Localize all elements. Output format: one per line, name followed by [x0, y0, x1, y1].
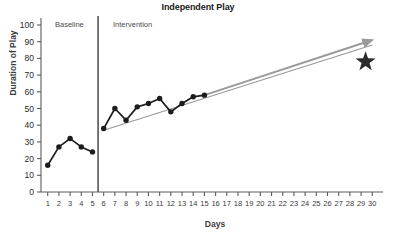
x-tick-label: 5 [90, 199, 94, 208]
x-tick-label: 7 [113, 199, 117, 208]
y-tick-label: 10 [25, 170, 35, 180]
x-tick-label: 23 [290, 199, 298, 208]
y-tick-label: 30 [25, 137, 35, 147]
x-tick-label: 4 [79, 199, 83, 208]
x-tick-label: 1 [46, 199, 50, 208]
y-tick-label: 20 [25, 154, 35, 164]
x-tick-label: 16 [211, 199, 219, 208]
x-tick-label: 13 [178, 199, 186, 208]
x-axis: 1234567891011121314151617181920212223242… [41, 192, 383, 208]
data-point [67, 136, 72, 141]
y-tick-label: 90 [25, 37, 35, 47]
x-tick-label: 20 [256, 199, 264, 208]
x-tick-label: 22 [279, 199, 287, 208]
x-tick-label: 25 [312, 199, 320, 208]
x-tick-label: 6 [102, 199, 106, 208]
chart-container: Independent Play Duration of Play Days B… [0, 0, 396, 237]
data-series [45, 92, 207, 168]
x-tick-label: 21 [267, 199, 275, 208]
x-tick-label: 28 [346, 199, 354, 208]
data-point [101, 126, 106, 131]
x-tick-label: 3 [68, 199, 72, 208]
star-icon [356, 51, 376, 70]
y-tick-label: 0 [29, 187, 34, 197]
x-tick-label: 9 [135, 199, 139, 208]
x-tick-label: 17 [223, 199, 231, 208]
trend-line-segment [104, 45, 373, 130]
y-tick-label: 100 [20, 20, 34, 30]
data-point [90, 149, 95, 154]
x-tick-label: 15 [200, 199, 208, 208]
data-point [79, 144, 84, 149]
x-tick-label: 26 [323, 199, 331, 208]
y-tick-label: 60 [25, 87, 35, 97]
y-tick-label: 80 [25, 53, 35, 63]
projection-arrow [204, 40, 372, 95]
y-tick-label: 40 [25, 120, 35, 130]
trend-line [104, 45, 373, 130]
data-point [135, 104, 140, 109]
plot-area: 0102030405060708090100 12345678910111213… [0, 0, 396, 237]
x-tick-label: 11 [156, 199, 164, 208]
x-tick-label: 27 [335, 199, 343, 208]
series-line-0 [48, 139, 93, 166]
projection-arrow-line [204, 40, 372, 95]
data-point [123, 117, 128, 122]
data-point [191, 94, 196, 99]
data-point [112, 106, 117, 111]
x-tick-label: 12 [167, 199, 175, 208]
goal-star-icon [356, 51, 376, 70]
x-tick-label: 19 [245, 199, 253, 208]
x-tick-label: 18 [234, 199, 242, 208]
y-axis: 0102030405060708090100 [20, 18, 41, 197]
data-point [179, 101, 184, 106]
x-tick-label: 30 [368, 199, 376, 208]
x-tick-label: 2 [57, 199, 61, 208]
data-point [146, 101, 151, 106]
x-tick-label: 29 [357, 199, 365, 208]
series-line-1 [104, 95, 205, 128]
y-tick-label: 50 [25, 104, 35, 114]
y-tick-label: 70 [25, 70, 35, 80]
data-point [56, 144, 61, 149]
data-point [202, 92, 207, 97]
data-point [45, 163, 50, 168]
data-point [168, 109, 173, 114]
x-tick-label: 10 [144, 199, 152, 208]
x-tick-label: 14 [189, 199, 197, 208]
x-tick-label: 24 [301, 199, 309, 208]
data-point [157, 96, 162, 101]
x-tick-label: 8 [124, 199, 128, 208]
